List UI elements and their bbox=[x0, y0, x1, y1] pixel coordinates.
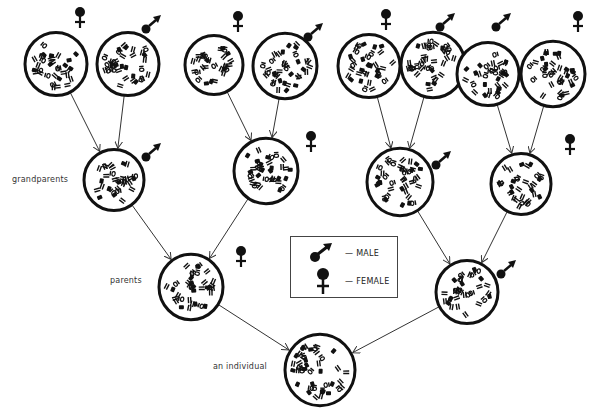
cell-g2 bbox=[234, 138, 298, 203]
arrow-g4-to-p2 bbox=[482, 211, 508, 263]
female-icon bbox=[301, 267, 341, 295]
male-icon bbox=[142, 143, 162, 162]
male-icon bbox=[492, 13, 512, 32]
cell-g3 bbox=[367, 148, 433, 215]
male-icon bbox=[301, 241, 341, 265]
arrow-g3-to-p2 bbox=[417, 210, 450, 264]
legend-male-label: — MALE bbox=[345, 249, 379, 258]
cell-gg5 bbox=[338, 34, 400, 97]
cells-layer bbox=[25, 32, 585, 405]
legend: — MALE — FEMALE bbox=[290, 236, 398, 298]
female-icon bbox=[573, 11, 583, 32]
female-icon bbox=[565, 134, 575, 155]
cell-gg8 bbox=[521, 41, 585, 106]
arrow-g1-to-p1 bbox=[132, 204, 172, 259]
arrow-gg5-to-g3 bbox=[377, 96, 391, 148]
arrow-gg3-to-g2 bbox=[227, 91, 251, 140]
female-icon bbox=[306, 131, 316, 152]
female-icon bbox=[236, 246, 246, 267]
label-grandparents: grandparents bbox=[12, 175, 68, 184]
legend-item-female: — FEMALE bbox=[291, 267, 397, 291]
label-parents: parents bbox=[110, 276, 142, 285]
arrow-gg1-to-g1 bbox=[70, 92, 100, 152]
cell-g4 bbox=[491, 153, 551, 214]
arrow-gg8-to-g4 bbox=[530, 105, 544, 154]
arrow-p2-to-i1 bbox=[353, 307, 440, 353]
arrow-gg4-to-g2 bbox=[272, 97, 279, 137]
female-icon bbox=[381, 9, 391, 30]
legend-female-label: — FEMALE bbox=[345, 277, 390, 286]
cell-p2 bbox=[436, 260, 498, 323]
cell-gg7 bbox=[457, 42, 519, 105]
arrow-gg6-to-g3 bbox=[410, 96, 425, 149]
cell-gg4 bbox=[253, 33, 317, 98]
male-icon bbox=[142, 15, 162, 34]
male-icon bbox=[436, 13, 456, 32]
cell-g1 bbox=[84, 149, 144, 210]
arrow-gg7-to-g4 bbox=[497, 104, 512, 154]
female-icon bbox=[75, 7, 85, 28]
cell-gg3 bbox=[185, 35, 243, 94]
cell-gg6 bbox=[401, 32, 465, 97]
pedigree-diagram: grandparents parents an individual — MAL… bbox=[0, 0, 591, 413]
arrow-p1-to-i1 bbox=[218, 304, 289, 350]
legend-item-male: — MALE bbox=[291, 241, 397, 265]
cell-gg2 bbox=[97, 32, 159, 95]
arrow-gg2-to-g1 bbox=[118, 95, 124, 148]
cell-gg1 bbox=[25, 32, 87, 95]
cell-i1 bbox=[285, 334, 355, 405]
diagram-canvas bbox=[0, 0, 591, 413]
label-an-individual: an individual bbox=[213, 362, 267, 371]
male-icon bbox=[432, 151, 452, 170]
male-icon bbox=[497, 260, 517, 279]
female-icon bbox=[233, 11, 243, 32]
male-icon bbox=[304, 23, 324, 42]
cell-p1 bbox=[159, 254, 223, 319]
